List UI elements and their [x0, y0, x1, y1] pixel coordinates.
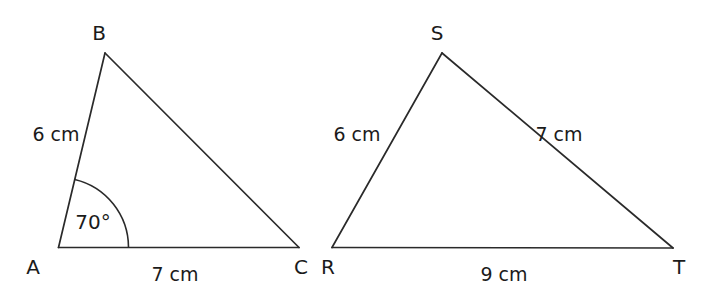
vertex-label-b: B	[92, 21, 106, 45]
triangle-rst-side-st	[442, 53, 673, 248]
side-label-rt: 9 cm	[480, 263, 527, 285]
vertex-label-t: T	[672, 255, 686, 279]
figure-canvas: B A C 6 cm 7 cm 70° S R T 6 cm 7 cm 9 cm	[0, 0, 704, 300]
triangle-rst-group: S R T 6 cm 7 cm 9 cm	[321, 21, 686, 285]
vertex-label-s: S	[431, 21, 444, 45]
triangle-rst-side-rt	[332, 248, 673, 249]
triangle-rst-side-rs	[332, 53, 442, 248]
side-label-ac: 7 cm	[151, 263, 198, 285]
geometry-diagram: B A C 6 cm 7 cm 70° S R T 6 cm 7 cm 9 cm	[0, 0, 704, 300]
vertex-label-c: C	[294, 255, 308, 279]
vertex-label-a: A	[26, 255, 40, 279]
triangle-abc-side-bc	[105, 53, 299, 248]
triangle-abc-group: B A C 6 cm 7 cm 70°	[26, 21, 308, 285]
side-label-rs: 6 cm	[333, 123, 380, 145]
vertex-label-r: R	[321, 255, 335, 279]
side-label-ab: 6 cm	[32, 123, 79, 145]
angle-label-a: 70°	[75, 210, 110, 234]
side-label-st: 7 cm	[535, 123, 582, 145]
